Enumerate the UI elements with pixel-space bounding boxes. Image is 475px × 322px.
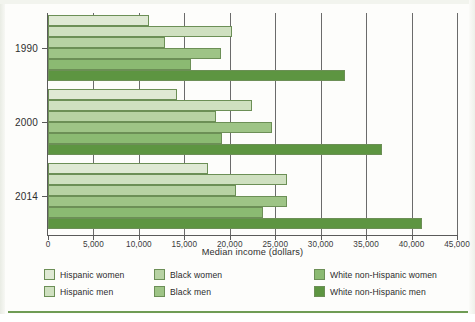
gridline <box>412 13 413 235</box>
bar <box>48 59 191 70</box>
legend-label: Hispanic women <box>60 270 124 280</box>
legend-swatch-icon <box>44 269 55 280</box>
y-axis-label-2000: 2000 <box>15 116 38 127</box>
bar <box>48 89 177 100</box>
bar <box>48 111 216 122</box>
page-edge-bottom <box>0 314 475 322</box>
gridline <box>321 13 322 235</box>
bar <box>48 122 272 133</box>
legend-swatch-icon <box>44 286 55 297</box>
legend-item[interactable]: Hispanic men <box>44 286 154 297</box>
legend-item[interactable]: Black men <box>154 286 314 297</box>
legend-label: White non-Hispanic men <box>330 287 426 297</box>
bar <box>48 48 221 59</box>
legend-item[interactable]: White non-Hispanic women <box>314 269 454 280</box>
bar <box>48 163 208 174</box>
bar <box>48 196 287 207</box>
bar <box>48 100 252 111</box>
bar <box>48 207 263 218</box>
chart-legend: Hispanic womenBlack womenWhite non-Hispa… <box>44 266 456 300</box>
y-axis-label-1990: 1990 <box>15 42 38 53</box>
legend-swatch-icon <box>314 286 325 297</box>
bar <box>48 174 287 185</box>
legend-item[interactable]: Hispanic women <box>44 269 154 280</box>
footer-rule <box>8 311 468 313</box>
legend-swatch-icon <box>314 269 325 280</box>
legend-swatch-icon <box>154 286 165 297</box>
legend-item[interactable]: Black women <box>154 269 314 280</box>
legend-swatch-icon <box>154 269 165 280</box>
bar <box>48 70 345 81</box>
bar <box>48 185 236 196</box>
bar <box>48 15 149 26</box>
legend-item[interactable]: White non-Hispanic men <box>314 286 454 297</box>
page-edge-top <box>0 0 475 4</box>
chart-figure: 05,00010,00015,00020,00025,00030,00035,0… <box>0 0 475 322</box>
page-edge-right <box>469 0 475 322</box>
page-edge-left <box>0 0 5 322</box>
legend-label: Hispanic men <box>60 287 113 297</box>
bar <box>48 26 232 37</box>
bar <box>48 218 422 229</box>
y-axis-label-2014: 2014 <box>15 190 38 201</box>
legend-label: Black men <box>170 287 211 297</box>
bar <box>48 37 165 48</box>
gridline <box>366 13 367 235</box>
bar <box>48 144 382 155</box>
x-axis-title: Median income (dollars) <box>48 247 457 257</box>
x-axis-line <box>47 235 458 236</box>
legend-label: White non-Hispanic women <box>330 270 437 280</box>
bar <box>48 133 222 144</box>
gridline <box>457 13 458 235</box>
plot-area: 05,00010,00015,00020,00025,00030,00035,0… <box>48 13 457 235</box>
legend-label: Black women <box>170 270 222 280</box>
